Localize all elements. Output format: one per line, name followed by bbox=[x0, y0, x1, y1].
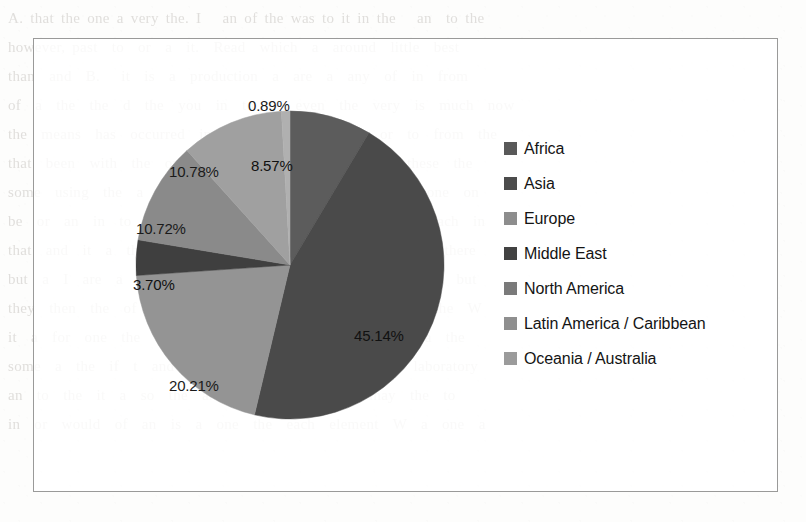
chart-legend: AfricaAsiaEuropeMiddle EastNorth America… bbox=[504, 131, 766, 376]
pie-slice-value-label: 10.78% bbox=[169, 163, 219, 180]
legend-swatch-icon bbox=[504, 352, 517, 365]
pie-slice-value-label: 3.70% bbox=[133, 276, 175, 293]
legend-swatch-icon bbox=[504, 247, 517, 260]
legend-swatch-icon bbox=[504, 282, 517, 295]
legend-item-label: Latin America / Caribbean bbox=[524, 315, 706, 333]
legend-item-label: Asia bbox=[524, 175, 555, 193]
pie-slice-value-label: 20.21% bbox=[169, 377, 219, 394]
chart-frame: 8.57%45.14%20.21%3.70%10.72%10.78%0.89% … bbox=[33, 38, 778, 492]
pie-slice-value-label: 0.89% bbox=[248, 97, 290, 114]
legend-item-label: Middle East bbox=[524, 245, 607, 263]
legend-item[interactable]: Oceania / Australia bbox=[504, 341, 766, 376]
legend-item[interactable]: Middle East bbox=[504, 236, 766, 271]
pie-chart[interactable]: 8.57%45.14%20.21%3.70%10.72%10.78%0.89% bbox=[135, 87, 445, 447]
legend-item[interactable]: Latin America / Caribbean bbox=[504, 306, 766, 341]
legend-item-label: North America bbox=[524, 280, 624, 298]
legend-swatch-icon bbox=[504, 142, 517, 155]
legend-item[interactable]: Africa bbox=[504, 131, 766, 166]
legend-swatch-icon bbox=[504, 212, 517, 225]
legend-item[interactable]: Europe bbox=[504, 201, 766, 236]
legend-item-label: Europe bbox=[524, 210, 575, 228]
legend-item[interactable]: North America bbox=[504, 271, 766, 306]
pie-slice-value-label: 8.57% bbox=[251, 157, 293, 174]
pie-slice-value-label: 10.72% bbox=[136, 220, 186, 237]
pie-slice-value-label: 45.14% bbox=[354, 327, 404, 344]
legend-swatch-icon bbox=[504, 177, 517, 190]
legend-item-label: Oceania / Australia bbox=[524, 350, 656, 368]
pie-chart-plot-area: 8.57%45.14%20.21%3.70%10.72%10.78%0.89% … bbox=[34, 39, 777, 491]
legend-swatch-icon bbox=[504, 317, 517, 330]
legend-item[interactable]: Asia bbox=[504, 166, 766, 201]
legend-item-label: Africa bbox=[524, 140, 564, 158]
